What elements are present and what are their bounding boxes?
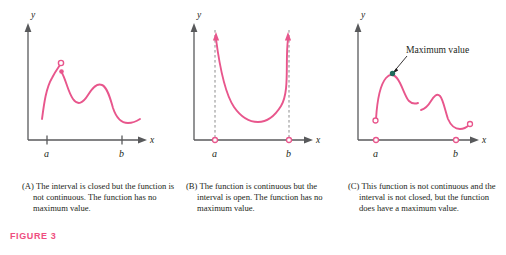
- x-tick-label-b-b: b: [286, 148, 291, 159]
- caption-a: (A) The interval is closed but the funct…: [22, 181, 180, 215]
- caption-b-tag: (B): [186, 181, 197, 191]
- open-circle-endpoint-b-c: [454, 138, 459, 143]
- open-circle-endpoint-b: [287, 138, 292, 143]
- curve-c-first-branch: [376, 75, 418, 119]
- curve-arrowhead-left-b: [213, 32, 219, 41]
- curve-arrowhead-right-b: [285, 32, 291, 41]
- caption-c-text: This function is not continuous and the …: [359, 181, 496, 213]
- x-axis-arrowhead-b: [304, 137, 313, 144]
- y-axis-arrowhead-b: [191, 23, 198, 32]
- x-axis-label-b: x: [315, 135, 321, 145]
- x-axis-label-a: x: [149, 135, 155, 145]
- caption-a-tag: (A): [22, 181, 34, 191]
- y-axis-label-b: y: [196, 10, 202, 20]
- y-axis-label-c: y: [360, 10, 366, 20]
- x-tick-label-b-c: b: [453, 148, 458, 159]
- figure-number-label: FIGURE 3: [10, 231, 56, 241]
- maximum-value-dot: [390, 71, 395, 76]
- figure-3-root: y x a b y x a: [0, 0, 506, 255]
- caption-b-text: The function is continuous but the inter…: [197, 181, 323, 213]
- x-tick-label-a-c: a: [373, 148, 378, 159]
- open-circle-endpoint-a-c: [374, 138, 379, 143]
- y-axis-label-a: y: [30, 10, 36, 20]
- curve-a-rising-branch: [42, 65, 60, 119]
- curve-a-main-branch: [62, 73, 140, 123]
- graph-b-svg: y x a b: [166, 0, 334, 175]
- caption-c-tag: (C): [348, 181, 359, 191]
- filled-dot-value-a: [59, 69, 64, 74]
- x-tick-label-b: b: [119, 148, 124, 159]
- caption-a-text: The interval is closed but the function …: [33, 181, 174, 213]
- graph-panel-c: Maximum value y x a b: [330, 0, 498, 175]
- y-axis-arrowhead-a: [25, 23, 32, 32]
- maximum-value-annotation: Maximum value: [406, 44, 469, 55]
- open-circle-curve-left-c: [373, 118, 378, 123]
- x-axis-label-c: x: [481, 135, 487, 145]
- graph-c-svg: Maximum value y x a b: [330, 0, 506, 175]
- caption-c: (C) This function is not continuous and …: [348, 181, 506, 215]
- graph-a-svg: y x a b: [0, 0, 168, 175]
- graph-panel-b: y x a b: [166, 0, 334, 175]
- x-tick-label-a: a: [44, 148, 49, 159]
- curve-b-parabola: [216, 39, 288, 122]
- x-tick-label-a-b: a: [212, 148, 217, 159]
- curve-c-second-branch: [421, 95, 469, 129]
- x-axis-arrowhead-c: [470, 137, 479, 144]
- caption-b: (B) The function is continuous but the i…: [186, 181, 344, 215]
- open-circle-curve-right-c: [468, 122, 473, 127]
- x-axis-arrowhead-a: [138, 137, 147, 144]
- open-circle-endpoint-a: [213, 138, 218, 143]
- y-axis-arrowhead-c: [355, 23, 362, 32]
- open-circle-limit-a: [58, 60, 63, 65]
- graph-panel-a: y x a b: [0, 0, 168, 175]
